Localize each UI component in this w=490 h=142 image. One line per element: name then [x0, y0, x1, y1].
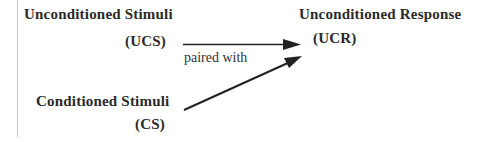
arrows	[0, 0, 490, 142]
ucs-to-ucr-arrow	[183, 39, 301, 50]
cs-to-ucr-arrow	[184, 56, 302, 110]
